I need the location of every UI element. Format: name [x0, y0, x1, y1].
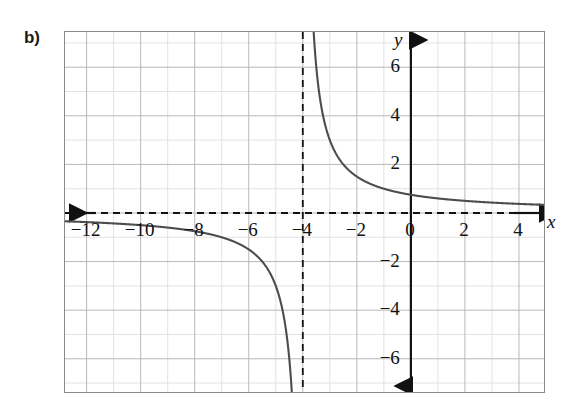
y-tick-label-2: 2	[390, 152, 400, 174]
curve-layer	[65, 32, 545, 393]
x-tick-label-neg8: −8	[184, 219, 204, 241]
x-tick-label-2: 2	[459, 219, 469, 241]
x-tick-label-0: 0	[405, 219, 415, 241]
y-tick-label-neg4: −4	[380, 298, 400, 320]
plot-frame	[64, 31, 545, 393]
y-axis-name: y	[394, 29, 402, 51]
figure-container: b) −12−10−8−6−4−2024642−2−4−6xy	[0, 0, 567, 417]
x-tick-label-neg2: −2	[346, 219, 366, 241]
part-label: b)	[24, 28, 40, 48]
x-tick-label-neg10: −10	[125, 219, 155, 241]
y-tick-label-4: 4	[390, 104, 400, 126]
x-tick-label-neg4: −4	[292, 219, 312, 241]
x-tick-label-neg6: −6	[238, 219, 258, 241]
x-axis-name: x	[547, 211, 555, 233]
y-tick-label-neg2: −2	[380, 250, 400, 272]
x-tick-label-neg12: −12	[71, 219, 101, 241]
y-tick-label-neg6: −6	[380, 347, 400, 369]
x-tick-label-4: 4	[513, 219, 523, 241]
y-tick-label-6: 6	[390, 55, 400, 77]
